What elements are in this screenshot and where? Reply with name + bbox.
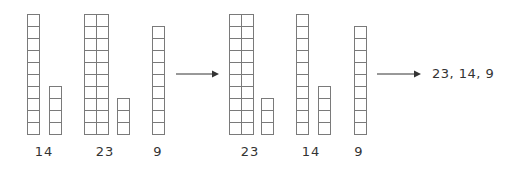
tens-rod [297,15,309,135]
tens-rod [230,15,242,135]
ones-column [262,99,274,135]
number-label-14-original: 14 [35,144,54,159]
ones-column [319,87,331,135]
number-label-9-original: 9 [153,144,162,159]
number-label-9-sorted: 9 [354,144,363,159]
arrow-to-sorted [176,71,219,78]
sorted-result-text: 23, 14, 9 [432,66,494,81]
number-label-14-sorted: 14 [302,144,321,159]
ones-column [355,27,367,135]
tens-rod [28,15,40,135]
arrow-to-result [377,71,421,78]
tens-rod [97,15,109,135]
number-label-23-sorted: 23 [241,144,260,159]
ones-column [118,99,130,135]
ones-column [153,27,165,135]
tens-rod [85,15,97,135]
number-label-23-original: 23 [96,144,115,159]
ones-column [50,87,62,135]
tens-rod [242,15,254,135]
